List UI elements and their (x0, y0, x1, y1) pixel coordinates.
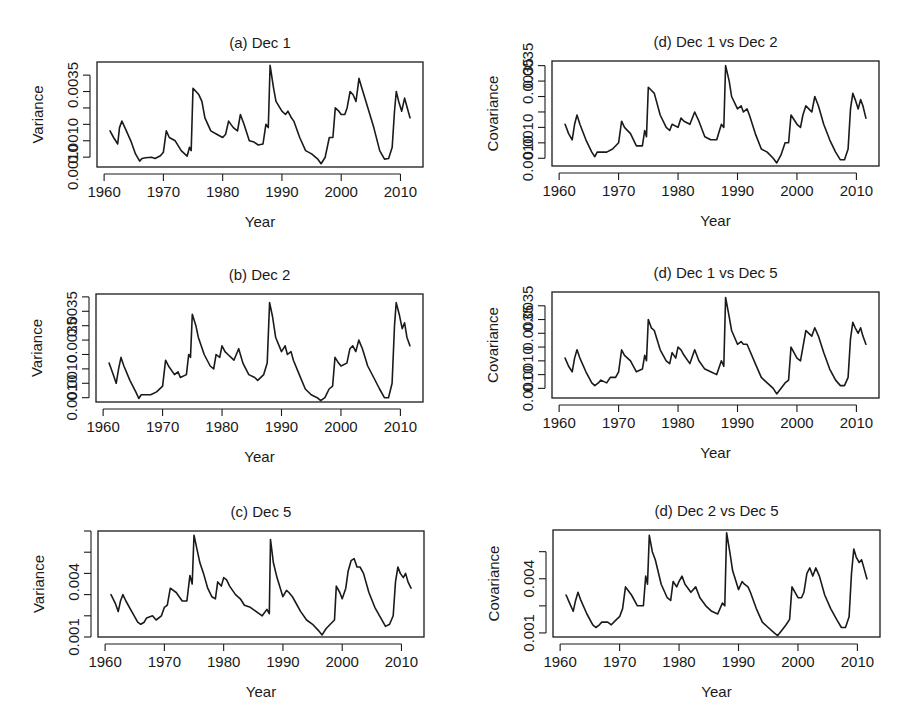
panel-title: (c) Dec 5 (231, 503, 292, 520)
y-axis: 0.00100.00100.0035 (64, 62, 90, 190)
x-tick-label: 1980 (205, 418, 238, 435)
panel-d12: (d) Dec 1 vs Dec 21960197019801990200020… (484, 33, 879, 229)
y-tick-label: 0.0035 (64, 62, 81, 108)
series-line (565, 298, 866, 394)
x-tick-label: 1990 (266, 653, 299, 670)
y-axis: 0.0010.004 (520, 552, 546, 652)
y-axis: 0.0010.004 (65, 531, 91, 656)
x-axis-label: Year (701, 683, 731, 700)
x-tick-label: 1970 (602, 182, 635, 199)
y-tick-label: 0.0010 (64, 118, 81, 164)
plot-frame (97, 62, 423, 167)
x-tick-label: 2000 (780, 414, 813, 431)
y-tick-label: 0.001 (65, 618, 82, 656)
plot-frame (96, 294, 423, 402)
plot-frame (98, 531, 424, 637)
x-tick-label: 2000 (324, 418, 357, 435)
x-tick-label: 1970 (602, 414, 635, 431)
panel-title: (d) Dec 1 vs Dec 5 (653, 264, 777, 281)
y-axis-label: Variance (28, 319, 45, 377)
y-axis-label: Variance (30, 555, 47, 613)
x-axis: 196019701980199020002010 (542, 405, 873, 431)
y-axis: 0.00100.00100.00350.0035 (519, 43, 545, 182)
x-tick-label: 2010 (385, 653, 418, 670)
x-axis: 196019701980199020002010 (87, 174, 417, 200)
y-tick-label: 0.0035 (519, 286, 536, 332)
plot-frame (552, 292, 879, 398)
y-tick-label: 0.004 (65, 563, 82, 601)
x-tick-label: 1960 (86, 418, 119, 435)
x-tick-label: 1960 (543, 653, 576, 670)
y-axis: 0.00100.00100.00350.0035 (63, 291, 89, 420)
x-tick-label: 1980 (207, 653, 240, 670)
y-axis-label: Variance (29, 85, 46, 143)
x-tick-label: 2010 (840, 182, 873, 199)
y-axis: 0.00100.00100.00350.0035 (519, 286, 545, 412)
x-axis: 196019701980199020002010 (88, 644, 418, 670)
x-tick-label: 1980 (661, 414, 694, 431)
x-axis: 196019701980199020002010 (543, 644, 874, 670)
x-axis-label: Year (700, 212, 730, 229)
series-line (111, 535, 411, 635)
y-tick-label: 0.0035 (519, 43, 536, 89)
x-tick-label: 1980 (206, 183, 239, 200)
x-tick-label: 2000 (781, 653, 814, 670)
panel-title: (a) Dec 1 (229, 34, 291, 51)
x-tick-label: 2010 (384, 418, 417, 435)
caption-fragment (0, 716, 907, 724)
x-tick-label: 1990 (265, 418, 298, 435)
y-tick-label: 0.001 (520, 614, 537, 652)
x-tick-label: 2010 (841, 653, 874, 670)
panel-grid: (a) Dec 1196019701980199020002010Year0.0… (28, 33, 880, 700)
x-tick-label: 1980 (662, 653, 695, 670)
panel-d25: (d) Dec 2 vs Dec 51960197019801990200020… (485, 502, 880, 700)
x-tick-label: 1970 (148, 653, 181, 670)
y-axis-label: Covariance (485, 546, 502, 622)
x-tick-label: 1990 (721, 414, 754, 431)
x-tick-label: 2010 (384, 183, 417, 200)
x-tick-label: 1990 (721, 182, 754, 199)
y-axis-label: Covariance (484, 307, 501, 383)
x-axis-label: Year (700, 444, 730, 461)
y-tick-label: 0.0010 (519, 346, 536, 392)
y-tick-label: 0.004 (520, 560, 537, 598)
panel-c: (c) Dec 5196019701980199020002010Year0.0… (30, 503, 424, 700)
x-axis-label: Year (246, 683, 276, 700)
x-tick-label: 1960 (542, 414, 575, 431)
x-tick-label: 2000 (326, 653, 359, 670)
series-line (566, 533, 867, 636)
series-line (565, 66, 866, 163)
y-tick-label: 0.0010 (519, 114, 536, 160)
plot-frame (553, 530, 880, 637)
x-tick-label: 1960 (87, 183, 120, 200)
x-tick-label: 1970 (146, 418, 179, 435)
plot-frame (552, 61, 879, 166)
panel-title: (d) Dec 1 vs Dec 2 (653, 33, 777, 50)
x-tick-label: 2010 (840, 414, 873, 431)
x-tick-label: 1980 (661, 182, 694, 199)
x-tick-label: 2000 (325, 183, 358, 200)
panel-b: (b) Dec 2196019701980199020002010Year0.0… (28, 266, 423, 465)
panel-title: (d) Dec 2 vs Dec 5 (654, 502, 778, 519)
series-line (110, 65, 410, 163)
x-tick-label: 1990 (722, 653, 755, 670)
x-tick-label: 1990 (265, 183, 298, 200)
panel-title: (b) Dec 2 (229, 266, 291, 283)
x-tick-label: 2000 (780, 182, 813, 199)
panel-a: (a) Dec 1196019701980199020002010Year0.0… (29, 34, 423, 230)
x-axis: 196019701980199020002010 (86, 409, 417, 435)
y-tick-label: 0.0035 (63, 291, 80, 337)
x-tick-label: 1970 (603, 653, 636, 670)
panel-d15: (d) Dec 1 vs Dec 51960197019801990200020… (484, 264, 879, 461)
x-tick-label: 1960 (542, 182, 575, 199)
series-line (109, 303, 410, 401)
x-axis-label: Year (245, 213, 275, 230)
x-axis: 196019701980199020002010 (542, 173, 873, 199)
x-tick-label: 1960 (88, 653, 121, 670)
x-axis-label: Year (244, 448, 274, 465)
y-axis-label: Covariance (484, 76, 501, 152)
figure-canvas: (a) Dec 1196019701980199020002010Year0.0… (0, 0, 907, 724)
x-tick-label: 1970 (147, 183, 180, 200)
